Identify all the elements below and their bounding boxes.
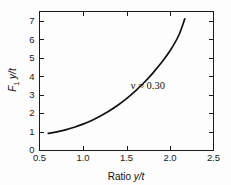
x-tick-label-2: 1.5 bbox=[120, 152, 133, 163]
x-axis-title: Ratio y/t bbox=[108, 171, 146, 182]
x-tick-label-1: 1.0 bbox=[76, 152, 89, 163]
y-tick-label-2: 2 bbox=[29, 107, 34, 118]
chart-container: 0.51.01.52.02.5 01234567 ν ≈ 0.30 Ratio … bbox=[0, 0, 231, 185]
y-tick-label-6: 6 bbox=[29, 34, 34, 45]
y-axis-title-text: F1 y/t bbox=[7, 67, 20, 92]
x-tick-label-3: 2.0 bbox=[163, 152, 176, 163]
x-tick-label-4: 2.5 bbox=[207, 152, 220, 163]
y-tick-label-3: 3 bbox=[29, 89, 34, 100]
chart-figure: 0.51.01.52.02.5 01234567 ν ≈ 0.30 Ratio … bbox=[0, 0, 231, 185]
curve-annotation: ν ≈ 0.30 bbox=[131, 80, 165, 91]
annotation-text-0: ν ≈ 0.30 bbox=[131, 80, 165, 91]
y-tick-label-4: 4 bbox=[29, 71, 34, 82]
y-tick-label-5: 5 bbox=[29, 52, 34, 63]
x-tick-label-0: 0.5 bbox=[33, 152, 46, 163]
y-tick-label-0: 0 bbox=[29, 144, 34, 155]
y-tick-label-1: 1 bbox=[29, 126, 34, 137]
y-tick-label-7: 7 bbox=[29, 15, 34, 26]
y-axis-title: F1 y/t bbox=[7, 67, 20, 92]
